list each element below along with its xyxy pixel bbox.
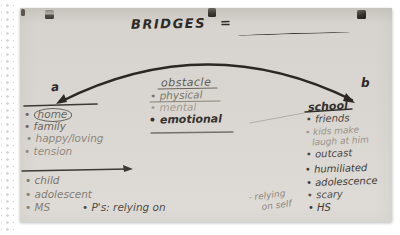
home-bullet: • [24,108,30,120]
photo-of-pinned-notes: BRIDGES= a b obstacle • physical • menta… [0,0,400,235]
arc-endpoint-label-b: b [361,77,370,89]
arc-endpoint-label-a: a [50,80,60,93]
left-list-item: • tension [24,146,72,157]
left-list-item: • MS [25,202,50,213]
perforated-margin [1,0,14,235]
push-pin-icon [21,9,25,16]
obstacle-heading: obstacle [161,77,212,89]
obstacle-item: • mental [150,102,197,113]
right-list-item: • scary [307,189,343,200]
parents-relying-note: • P's: relying on [82,202,166,213]
equals-sign: = [220,15,231,30]
left-list-item: • happy/loving [26,133,104,144]
left-list-item: • family [24,121,66,132]
page-title: BRIDGES= [131,16,231,31]
push-pin-icon [45,10,54,19]
obstacle-item: • emotional [149,113,222,125]
right-list-item: • HS [308,203,331,213]
push-pin-icon [357,10,366,19]
right-list-item: • friends [306,113,350,125]
left-list-item: • adolescent [25,189,92,200]
right-list-item: • outcast [306,148,353,160]
left-list-item: • child [25,175,59,186]
title-word: BRIDGES [131,16,206,32]
school-heading: school [308,100,348,113]
obstacle-item: • physical [150,89,203,101]
